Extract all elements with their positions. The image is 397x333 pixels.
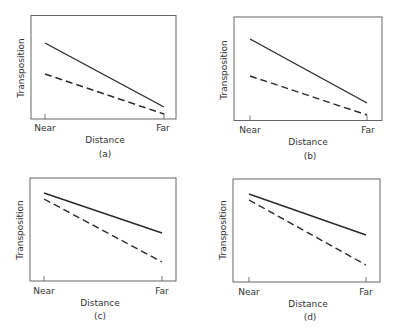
panel-label: (b) bbox=[304, 151, 317, 161]
x-tick-near: Near bbox=[34, 123, 56, 133]
y-axis-label: Transposition bbox=[219, 40, 229, 100]
plot-frame bbox=[30, 178, 176, 281]
panel-label: (d) bbox=[304, 312, 317, 322]
x-tick-near: Near bbox=[239, 125, 261, 135]
y-axis-label: Transposition bbox=[218, 200, 228, 260]
plot-frame bbox=[233, 179, 380, 282]
figure: Transposition Near Far Distance (a) Tran… bbox=[0, 0, 397, 333]
solid-line bbox=[249, 194, 366, 235]
x-axis-label: Distance bbox=[288, 137, 328, 147]
dashed-line bbox=[44, 199, 162, 262]
panel-b: Transposition Near Far Distance (b) bbox=[219, 17, 382, 161]
solid-line bbox=[44, 193, 162, 233]
x-axis-label: Distance bbox=[80, 298, 120, 308]
plot-frame bbox=[234, 17, 382, 121]
panel-label: (c) bbox=[94, 311, 106, 321]
x-tick-near: Near bbox=[238, 287, 260, 297]
dashed-line bbox=[45, 74, 164, 114]
x-tick-far: Far bbox=[359, 287, 373, 297]
x-axis-label: Distance bbox=[85, 135, 125, 145]
x-axis-label: Distance bbox=[288, 299, 328, 309]
x-tick-far: Far bbox=[156, 123, 170, 133]
panel-a: Transposition Near Far Distance (a) bbox=[16, 16, 176, 160]
dashed-line bbox=[250, 76, 367, 115]
plot-frame bbox=[31, 16, 176, 120]
solid-line bbox=[250, 39, 367, 103]
x-tick-near: Near bbox=[33, 286, 55, 296]
x-tick-far: Far bbox=[155, 286, 169, 296]
x-tick-far: Far bbox=[361, 125, 375, 135]
y-axis-label: Transposition bbox=[16, 38, 26, 98]
panel-d: Transposition Near Far Distance (d) bbox=[218, 179, 380, 322]
panel-label: (a) bbox=[99, 149, 112, 159]
panel-c: Transposition Near Far Distance (c) bbox=[15, 178, 176, 321]
solid-line bbox=[45, 43, 164, 107]
y-axis-label: Transposition bbox=[15, 200, 25, 260]
dashed-line bbox=[249, 200, 366, 265]
